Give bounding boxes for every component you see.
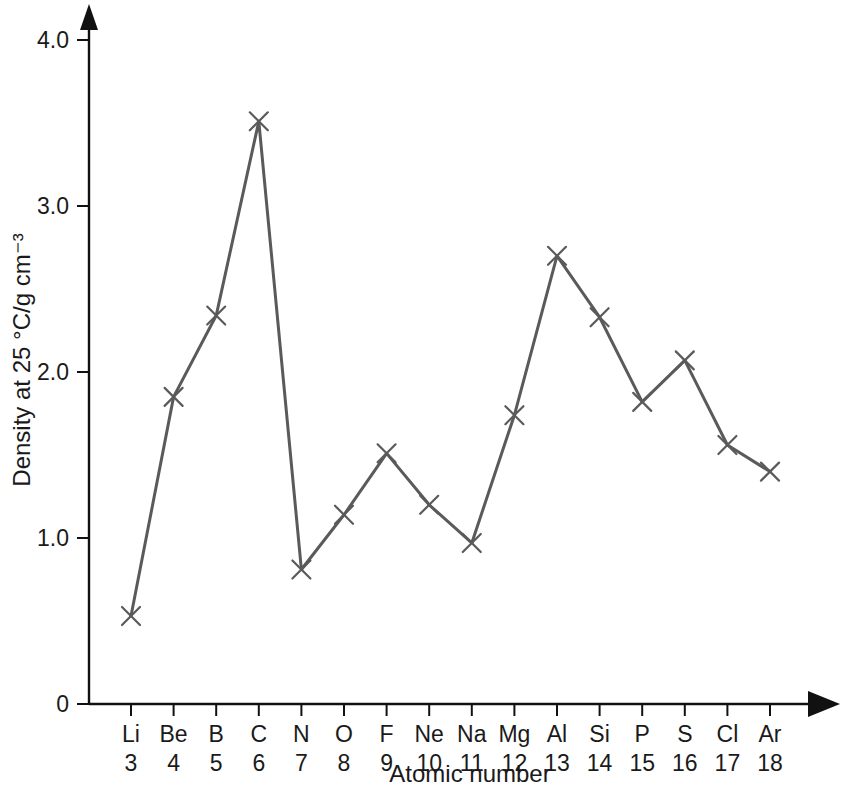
x-tick-number-label: 14	[587, 750, 613, 776]
x-tick-element-label: Na	[457, 721, 487, 747]
x-tick-element-label: Be	[160, 721, 188, 747]
data-point-marker	[378, 444, 396, 462]
y-tick-label: 4.0	[37, 27, 69, 53]
x-tick-element-label: B	[209, 721, 224, 747]
data-point-marker	[718, 436, 736, 454]
x-tick-number-label: 6	[252, 750, 265, 776]
x-tick-element-label: Ar	[759, 721, 782, 747]
x-tick-number-label: 17	[715, 750, 741, 776]
y-tick-label: 3.0	[37, 193, 69, 219]
y-tick-label: 1.0	[37, 525, 69, 551]
x-tick-number-label: 4	[167, 750, 180, 776]
x-axis-arrowhead-icon	[808, 691, 840, 717]
density-series-markers	[122, 112, 779, 625]
data-point-marker	[420, 496, 438, 514]
data-point-marker	[548, 247, 566, 265]
data-point-marker	[505, 406, 523, 424]
x-axis-title: Atomic number	[389, 760, 550, 787]
x-tick-element-label: Cl	[717, 721, 739, 747]
chart-canvas: 01.02.03.04.0 Li3Be4B5C6N7O8F9Ne10Na11Mg…	[0, 0, 846, 793]
data-point-marker	[761, 463, 779, 481]
x-tick-number-label: 15	[629, 750, 655, 776]
x-tick-number-label: 18	[757, 750, 783, 776]
x-tick-number-label: 3	[125, 750, 138, 776]
y-axis-title: Density at 25 °C/g cm⁻³	[8, 233, 35, 486]
y-axis	[80, 4, 98, 704]
y-axis-arrowhead-icon	[80, 4, 98, 30]
x-tick-element-label: S	[677, 721, 692, 747]
x-tick-element-label: N	[293, 721, 310, 747]
x-tick-element-label: Al	[547, 721, 567, 747]
y-axis-ticks: 01.02.03.04.0	[37, 27, 89, 717]
density-vs-atomic-number-chart: 01.02.03.04.0 Li3Be4B5C6N7O8F9Ne10Na11Mg…	[0, 0, 846, 793]
data-point-marker	[676, 351, 694, 369]
x-tick-element-label: C	[250, 721, 267, 747]
x-tick-element-label: Li	[122, 721, 140, 747]
x-tick-number-label: 7	[295, 750, 308, 776]
y-tick-label: 0	[56, 691, 69, 717]
x-tick-element-label: P	[635, 721, 650, 747]
x-tick-number-label: 5	[210, 750, 223, 776]
x-tick-element-label: Mg	[498, 721, 530, 747]
data-point-marker	[463, 534, 481, 552]
x-tick-number-label: 8	[338, 750, 351, 776]
density-series-line	[131, 121, 770, 616]
y-tick-label: 2.0	[37, 359, 69, 385]
data-point-marker	[335, 506, 353, 524]
x-tick-element-label: Ne	[414, 721, 443, 747]
data-point-marker	[633, 393, 651, 411]
x-tick-element-label: F	[380, 721, 394, 747]
x-tick-element-label: Si	[589, 721, 609, 747]
x-tick-number-label: 16	[672, 750, 698, 776]
x-tick-element-label: O	[335, 721, 353, 747]
data-point-marker	[591, 308, 609, 326]
